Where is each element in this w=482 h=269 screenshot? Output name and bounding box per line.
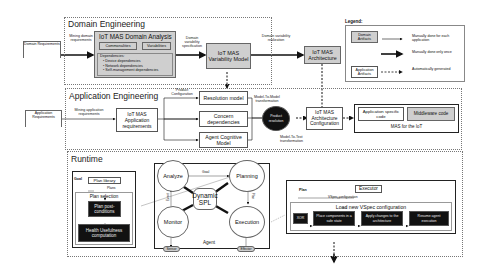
- domain-requirements-label: Domain Requirements: [24, 42, 60, 46]
- monitor-node: Monitor: [157, 206, 189, 238]
- agent-cognitive-model-box: Agent Cognitive Model: [199, 132, 248, 148]
- legend-thin-label: Manually done for each application: [412, 34, 464, 43]
- executor-box: Executor: [355, 185, 382, 193]
- resolution-model-box: Resolution model: [199, 91, 248, 105]
- xor-step: XOR: [293, 213, 308, 224]
- analyze-node: Analyze: [157, 160, 189, 192]
- planning-node: Planning: [229, 160, 265, 192]
- variability-model-box: IoT MAS Variability Model: [206, 43, 251, 69]
- agent-label: Agent: [203, 240, 215, 245]
- domain-requirements-doc: Domain Requirements: [23, 41, 61, 58]
- legend-dashed-label: Automatically generated: [412, 67, 464, 71]
- runtime-title: Runtime: [71, 154, 103, 164]
- architecture-box: IoT MAS Architecture: [304, 46, 341, 64]
- legend-title: Legend:: [345, 19, 363, 24]
- application-engineering-title: Application Engineering: [69, 91, 158, 101]
- domain-engineering-title: Domain Engineering: [68, 19, 145, 29]
- dependencies-box: Dependencies: • Device dependencies • Ne…: [97, 53, 173, 76]
- domain-spec-label: Domain variability specification: [178, 36, 206, 48]
- commonalities-box: Commonalities: [99, 42, 137, 50]
- architecture-config-box: IoT MAS Architecture Configuration: [306, 107, 343, 130]
- plan-label: Plan: [299, 188, 307, 192]
- vspec-config-label: VSpec configuration: [328, 195, 358, 199]
- app-requirements-box: IoT MAS Application requirements: [116, 108, 158, 132]
- goal-label: Goal: [74, 177, 82, 181]
- m2t-label: Model-To-Text transformation: [280, 135, 308, 143]
- execution-node: Execution: [229, 206, 265, 238]
- legend-application-artifacts: Application Artifacts: [351, 66, 378, 78]
- dependency-item: • Self-management dependencies: [100, 68, 172, 73]
- mas-label: MAS for the IoT: [355, 124, 458, 129]
- concern-dependencies-box: Concern dependencies: [199, 111, 248, 127]
- legend-thick-label: Manually done only once: [412, 50, 464, 54]
- mas-for-iot-box: Application specific code Middleware cod…: [354, 104, 459, 133]
- apply-changes-step: Apply changes to the architecture: [361, 211, 403, 226]
- plan-library-box: Plan library: [88, 177, 121, 184]
- product-config-label: Product Configuration: [167, 88, 197, 96]
- sensor-node: Sensor: [163, 246, 180, 252]
- plans-label: Plans: [107, 186, 115, 190]
- dynamic-spl-node: Dynamic SPL: [193, 188, 217, 210]
- safe-state-step: Place components in a safe state: [313, 211, 355, 226]
- plan-selection-title: Plan selection: [76, 194, 132, 199]
- application-requirements-doc: Application Requirements: [25, 110, 62, 127]
- domain-realization-label: Domain variability realization: [258, 34, 294, 42]
- goal-edge-label: Goal: [202, 170, 209, 174]
- domain-analysis-box: IoT MAS Domain Analysis Commonalities Va…: [94, 31, 176, 78]
- app-code-box: Application specific code: [358, 107, 404, 121]
- load-vspec-title: Load new VSpec configuration: [291, 204, 451, 210]
- mining-application-label: Mining application requirements: [69, 108, 109, 116]
- middleware-code-box: Middleware code: [407, 107, 455, 121]
- event-edge-label: Event: [166, 193, 170, 201]
- product-resolution-node: Product resolution: [262, 106, 290, 131]
- post-conditions-box: Plan post-conditions: [88, 201, 121, 217]
- resume-agent-step: Resume agent execution: [409, 211, 449, 226]
- plan-edge-label: Plan: [251, 193, 255, 199]
- legend-domain-artifacts: Domain Artifacts: [351, 31, 378, 43]
- effector-node: Effector: [237, 246, 255, 252]
- mining-domain-label: Mining domain requirements: [67, 34, 95, 42]
- health-usefulness-box: Health Usefulness computation: [78, 224, 130, 242]
- domain-analysis-title: IoT MAS Domain Analysis: [99, 33, 172, 40]
- application-requirements-label: Application Requirements: [32, 111, 54, 119]
- variabilities-box: Variabilities: [142, 42, 171, 50]
- m2m-label: Model-To-Model transformation: [250, 95, 284, 103]
